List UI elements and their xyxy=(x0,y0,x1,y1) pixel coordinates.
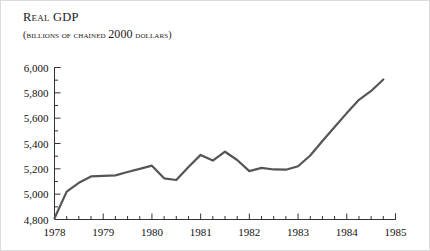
y-axis-tick-label: 6,000 xyxy=(1,62,49,74)
x-axis-tick-label: 1984 xyxy=(336,226,358,238)
x-axis-tick-label: 1978 xyxy=(44,226,66,238)
y-axis-ticks xyxy=(55,68,61,220)
y-axis-tick-label: 5,200 xyxy=(1,163,49,175)
y-axis-tick-label: 5,000 xyxy=(1,188,49,200)
chart-figure: Real GDP (billions of chained 2000 dolla… xyxy=(0,0,430,251)
x-axis-tick-label: 1985 xyxy=(385,226,407,238)
y-axis-tick-label: 5,800 xyxy=(1,87,49,99)
x-axis-ticks xyxy=(55,214,396,220)
x-axis-tick-label: 1980 xyxy=(141,226,163,238)
y-axis-tick-label: 5,400 xyxy=(1,138,49,150)
y-axis-tick-label: 5,600 xyxy=(1,112,49,124)
x-axis-tick-label: 1979 xyxy=(92,226,114,238)
axis-lines xyxy=(55,68,396,220)
axes-group xyxy=(55,68,396,220)
gdp-line-series xyxy=(55,80,384,219)
x-axis-tick-label: 1983 xyxy=(287,226,309,238)
x-axis-tick-label: 1981 xyxy=(190,226,212,238)
x-axis-tick-label: 1982 xyxy=(238,226,260,238)
y-axis-tick-label: 4,800 xyxy=(1,214,49,226)
chart-plot-area xyxy=(1,1,430,251)
